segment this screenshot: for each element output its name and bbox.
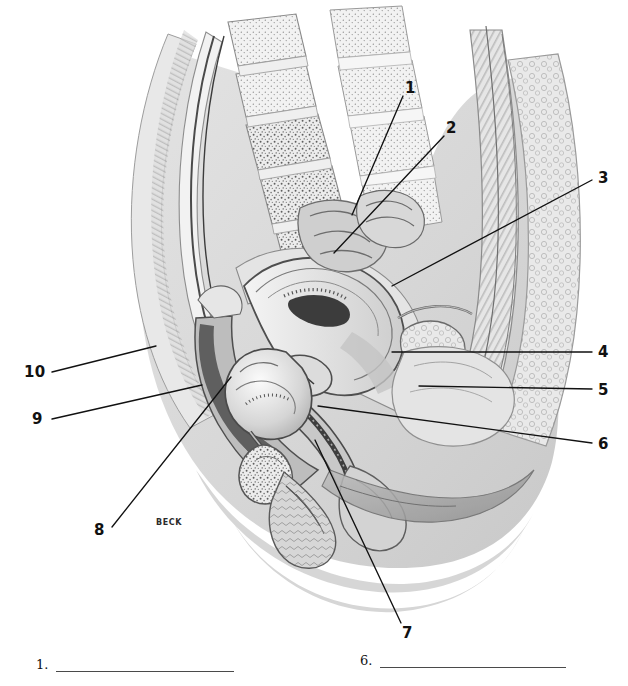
callout-label-5: 5 (598, 383, 609, 398)
answer-lines-section: 1. 6. (0, 640, 628, 686)
callout-label-8: 8 (94, 523, 105, 538)
artist-signature: BECK (156, 518, 182, 527)
answer-rule-1[interactable] (56, 671, 234, 672)
worksheet-page: 1 2 3 4 5 6 7 8 9 10 BECK 1. 6. (0, 0, 628, 686)
callout-label-6: 6 (598, 437, 609, 452)
answer-row-1: 1. (36, 658, 234, 672)
callout-label-2: 2 (446, 121, 457, 136)
callout-label-7: 7 (402, 626, 413, 641)
leader-line-10 (52, 346, 156, 372)
callout-label-4: 4 (598, 345, 609, 360)
answer-row-6: 6. (360, 654, 566, 668)
callout-label-10: 10 (24, 365, 45, 380)
callout-label-3: 3 (598, 171, 609, 186)
callout-label-9: 9 (32, 412, 43, 427)
callout-label-1: 1 (405, 81, 416, 96)
anatomy-illustration: 1 2 3 4 5 6 7 8 9 10 BECK (0, 0, 628, 640)
answer-rule-6[interactable] (380, 667, 566, 668)
answer-index-6: 6. (360, 654, 372, 668)
answer-index-1: 1. (36, 658, 48, 672)
